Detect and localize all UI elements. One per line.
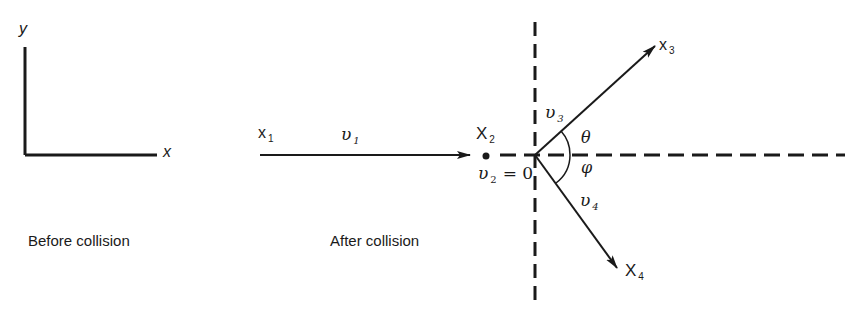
x4-subscript: 4 [638,271,644,282]
x1-subscript: 1 [268,133,274,144]
v2-equals-zero: = 0 [503,163,533,183]
x4-symbol: X [625,261,636,280]
x2-subscript: 2 [489,134,495,145]
phi-arc [556,155,570,183]
target-particle-dot [483,153,490,160]
collision-diagram [0,0,857,311]
theta-arc [561,131,570,155]
particle-x4-label: X4 [625,261,644,282]
x2-symbol: X [476,124,487,143]
velocity-v1-label: υ1 [341,124,360,146]
y-axis-label: y [19,20,27,38]
v3-subscript: 3 [557,113,563,124]
v3-arrow [535,46,655,155]
v4-symbol: υ [580,190,590,210]
x3-symbol: x [659,36,667,53]
v2-subscript: 2 [490,174,496,185]
velocity-v4-label: υ4 [580,190,599,212]
theta-label: θ [581,128,591,147]
v1-symbol: υ [341,124,351,144]
coordinate-frame [25,47,157,155]
velocity-v3-label: υ3 [545,102,564,124]
phi-label: φ [581,158,592,177]
caption-before-collision: Before collision [28,232,130,249]
x3-subscript: 3 [669,45,675,56]
x-axis-label: x [163,143,171,161]
v4-subscript: 4 [592,201,598,212]
velocity-v2-label: υ2= 0 [478,163,533,185]
v2-symbol: υ [478,163,488,183]
v4-arrow [535,155,617,268]
particle-x1-label: x1 [258,124,274,144]
x1-symbol: x [258,124,266,141]
v3-symbol: υ [545,102,555,122]
particle-x3-label: x3 [659,36,675,56]
caption-after-collision: After collision [330,232,419,249]
v1-subscript: 1 [353,135,359,146]
particle-x2-label: X2 [476,124,495,145]
